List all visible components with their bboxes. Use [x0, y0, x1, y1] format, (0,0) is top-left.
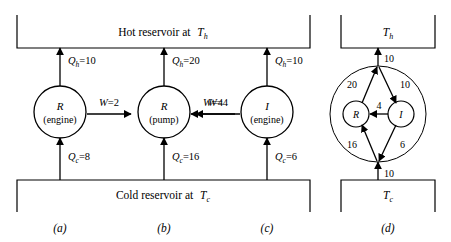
- panel-c-device-circle: [241, 86, 293, 138]
- panel-b-device-symbol: R: [160, 100, 168, 112]
- panel-d-from-cold-label: 10: [384, 168, 394, 179]
- panel-c-qcold-label: Qc=6: [275, 151, 297, 165]
- cold-temp-subscript: c: [207, 195, 211, 204]
- panel-a-caption: (a): [53, 222, 67, 235]
- panel-a-qhot-label: Qh=10: [68, 55, 96, 69]
- hot-reservoir-label: Hot reservoir at Th: [118, 26, 207, 41]
- hot-temp-subscript: h: [204, 32, 208, 41]
- panel-a: Qh=10 R (engine) W=2 Qc=8 (a): [34, 48, 131, 235]
- panel-c-work-label: W=4: [208, 97, 229, 108]
- panel-b-qhot-label: Qh=20: [172, 55, 200, 69]
- panel-d-i-to-bottom-arrow: [379, 125, 396, 161]
- panel-d-device-r-symbol: R: [352, 109, 359, 120]
- panel-c-device-kind: (engine): [250, 114, 283, 126]
- panel-d-hot-reservoir-label: Th: [383, 26, 393, 41]
- panel-b-device-kind: (pump): [149, 114, 178, 126]
- hot-reservoir-text: Hot reservoir at: [118, 26, 191, 38]
- panel-b-device-circle: [138, 86, 190, 138]
- panel-c: Qh=10 I (engine) W=4 Qc=6 (c): [196, 48, 303, 235]
- panel-c-qhot-label: Qh=10: [275, 55, 303, 69]
- panel-a-device-symbol: R: [56, 100, 64, 112]
- figure-container: Hot reservoir at Th Cold reservoir at Tc…: [0, 0, 451, 242]
- panel-d-bottom-to-r-label: 16: [347, 139, 357, 150]
- panel-d-to-hot-label: 10: [384, 53, 394, 64]
- panel-b-qcold-label: Qc=16: [172, 151, 199, 165]
- panel-d-r-to-top-arrow: [362, 67, 377, 103]
- panel-a-device-kind: (engine): [43, 114, 76, 126]
- panel-b: Qh=20 R (pump) W=4 Qc=16 (b): [138, 48, 235, 235]
- panel-d-top-to-i-arrow: [379, 67, 396, 103]
- cold-reservoir-label: Cold reservoir at Tc: [116, 189, 211, 204]
- panel-d-top-to-i-label: 10: [400, 79, 410, 90]
- panel-c-caption: (c): [261, 222, 274, 235]
- panel-d: Th Tc 10 10 R I 20 10 4 16: [330, 15, 435, 235]
- panel-d-device-i-symbol: I: [398, 109, 403, 120]
- panel-d-caption: (d): [381, 222, 395, 235]
- panel-b-caption: (b): [157, 222, 171, 235]
- panel-d-i-to-bottom-label: 6: [400, 139, 405, 150]
- panel-a-work-label: W=2: [99, 97, 119, 108]
- panel-d-cold-reservoir-label: Tc: [383, 189, 393, 204]
- panel-d-i-to-r-label: 4: [377, 100, 382, 111]
- panel-a-qcold-label: Qc=8: [68, 151, 90, 165]
- cold-reservoir-text: Cold reservoir at: [116, 189, 194, 201]
- panel-d-bottom-to-r-arrow: [362, 125, 377, 161]
- thermodynamics-diagram: Hot reservoir at Th Cold reservoir at Tc…: [0, 0, 451, 242]
- panel-c-device-symbol: I: [264, 100, 270, 112]
- panel-d-r-to-top-label: 20: [347, 79, 357, 90]
- panel-a-device-circle: [34, 86, 86, 138]
